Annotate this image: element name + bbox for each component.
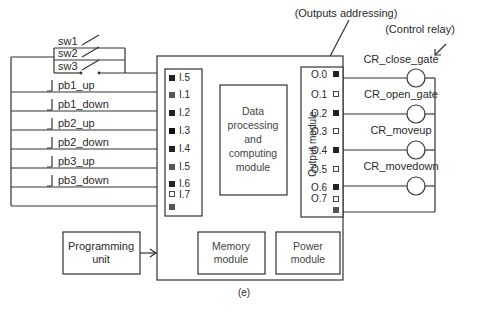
input-led-icon: [169, 164, 175, 170]
svg-text:Power: Power: [293, 240, 323, 252]
svg-text:O.2: O.2: [311, 108, 328, 119]
svg-text:Data: Data: [242, 105, 264, 117]
pushbutton-icon: [47, 156, 52, 167]
relay-group: CR_close_gate CR_open_gate CR_moveup CR_…: [343, 53, 439, 212]
svg-text:O.5: O.5: [311, 164, 328, 175]
svg-text:module: module: [291, 253, 326, 265]
input-led-icon: [170, 192, 175, 197]
relay-label: CR_moveup: [370, 124, 431, 136]
svg-text:processing: processing: [228, 119, 279, 131]
programming-unit: Programming unit: [63, 232, 156, 274]
svg-text:O.6: O.6: [311, 182, 328, 193]
output-led-icon: [334, 167, 339, 172]
input-led-icon: [169, 110, 175, 116]
svg-text:I.7: I.7: [179, 189, 191, 200]
pushbutton-icon: [47, 80, 52, 91]
output-module: Output module O.0 O.1 O.2 O.3 O.4 O.5 O.…: [301, 67, 343, 217]
relay-coil-icon: [407, 141, 425, 159]
relay-coil-icon: [407, 69, 425, 87]
input-module: I.5 I.1 I.2 I.3 I.4 I.5 I.6 I.7: [165, 69, 202, 216]
switch-label: sw3: [58, 60, 78, 72]
pushbutton-icon: [47, 99, 52, 110]
switch-contact-icon: [82, 35, 99, 45]
pushbutton-label: pb1_down: [58, 98, 109, 110]
svg-text:I.6: I.6: [179, 178, 191, 189]
outputs-addressing-annotation: (Outputs addressing): [295, 7, 398, 19]
svg-text:O.4: O.4: [311, 145, 328, 156]
output-led-icon: [333, 184, 339, 190]
output-led-icon: [334, 92, 339, 97]
power-module: Power module: [276, 232, 340, 274]
switch-label: sw2: [58, 47, 78, 59]
svg-text:computing: computing: [229, 147, 278, 159]
output-led-icon: [334, 129, 339, 134]
output-led-icon: [333, 207, 339, 213]
svg-text:I.2: I.2: [179, 107, 191, 118]
data-processing-module: Data processing and computing module: [220, 85, 287, 195]
svg-text:module: module: [236, 161, 271, 173]
input-led-icon: [169, 75, 175, 81]
pushbutton-label: pb3_up: [58, 155, 95, 167]
relay-label: CR_close_gate: [363, 53, 438, 65]
relay-coil-icon: [407, 177, 425, 195]
svg-text:O.3: O.3: [311, 126, 328, 137]
memory-module: Memory module: [198, 232, 265, 274]
svg-text:Memory: Memory: [212, 240, 251, 252]
switch-group: sw1 sw2 sw3: [54, 35, 157, 74]
output-led-icon: [334, 197, 339, 202]
relay-coil-icon: [407, 105, 425, 123]
svg-text:and: and: [244, 133, 262, 145]
svg-text:I.4: I.4: [179, 143, 191, 154]
pushbutton-label: pb1_up: [58, 79, 95, 91]
svg-text:I.1: I.1: [179, 89, 191, 100]
svg-text:O.1: O.1: [311, 89, 328, 100]
pushbutton-label: pb2_down: [58, 136, 109, 148]
control-relay-annotation: (Control relay): [385, 23, 455, 35]
svg-text:I.5: I.5: [179, 161, 191, 172]
pushbutton-group: pb1_up pb1_down pb2_up pb2_down pb3_up p…: [11, 79, 157, 206]
relay-label: CR_open_gate: [364, 88, 438, 100]
output-led-icon: [333, 71, 339, 77]
relay-label: CR_movedown: [363, 160, 438, 172]
svg-text:O.0: O.0: [311, 69, 328, 80]
svg-text:I.5: I.5: [179, 72, 191, 83]
pushbutton-icon: [47, 175, 52, 186]
switch-contact-icon: [82, 60, 99, 70]
pushbutton-icon: [47, 118, 52, 129]
input-led-icon: [169, 92, 175, 98]
svg-text:Programming: Programming: [68, 240, 134, 252]
output-led-icon: [333, 110, 339, 116]
svg-text:O.7: O.7: [311, 193, 328, 204]
output-led-icon: [333, 147, 339, 153]
pushbutton-icon: [47, 137, 52, 148]
input-led-icon: [169, 181, 175, 187]
switch-label: sw1: [58, 35, 78, 47]
pushbutton-label: pb2_up: [58, 117, 95, 129]
svg-text:I.3: I.3: [179, 125, 191, 136]
input-led-icon: [169, 128, 175, 134]
figure-label: (e): [238, 287, 250, 298]
input-led-icon: [169, 146, 175, 152]
input-led-icon: [169, 204, 175, 210]
svg-text:unit: unit: [92, 253, 110, 265]
plc-wiring-diagram: (Outputs addressing) (Control relay) sw1…: [0, 0, 493, 309]
svg-text:module: module: [214, 253, 249, 265]
pushbutton-label: pb3_down: [58, 174, 109, 186]
